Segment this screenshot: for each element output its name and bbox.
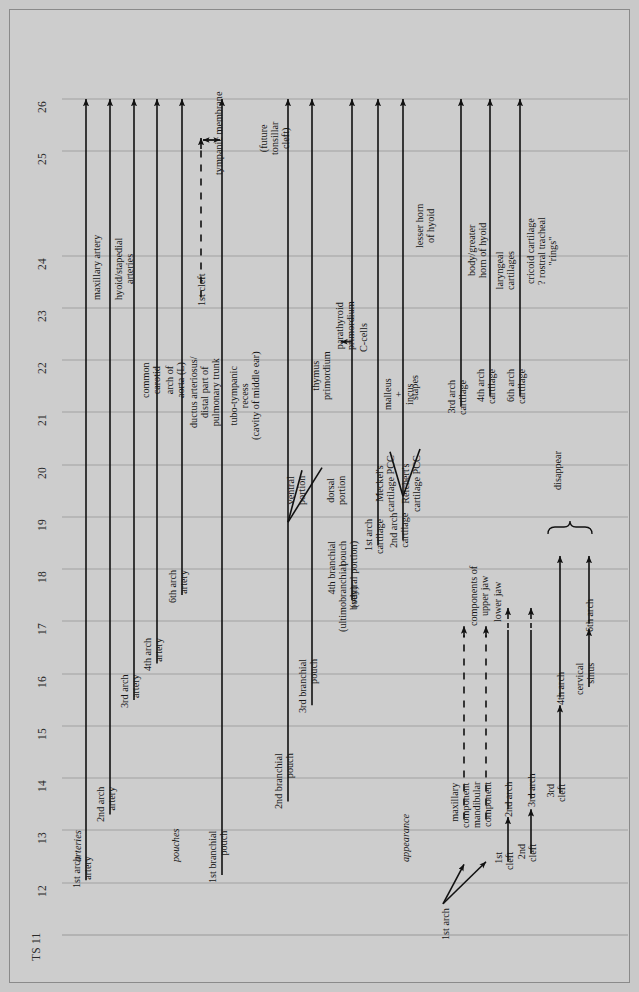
annotation-lesser-horn-of-hyoid: lesser horn of hyoid <box>414 204 436 248</box>
annotation-arch-of-aorta: arch of aorta (L) <box>164 362 186 398</box>
annotation-meckels-cartilage: Meckel's cartilage PCC <box>374 455 396 512</box>
section-heading-arteries: arteries <box>72 830 83 862</box>
track-label-3rd-cleft-appearance: 3rd cleft <box>545 783 567 801</box>
annotation-thymus-primordium: thymus primordium <box>310 351 332 400</box>
track-label-1st-arch-cartilage: 1st arch cartilage <box>363 519 385 554</box>
track-label-6th-arch-artery: 6th arch artery <box>167 570 189 603</box>
annotation-reicherts-cartilage: Reichert's cartilage PCC <box>400 455 422 512</box>
annotation-ultimobranchial-body: (ultimobranchial body) <box>337 564 359 632</box>
annotation-tympanic-membrane: tympanic membrane <box>213 92 224 175</box>
annotation-parathyroid-primordium: parathyroid primordium <box>334 301 356 350</box>
axis-tick-18: 18 <box>36 571 48 583</box>
axis-tick-20: 20 <box>36 467 48 479</box>
annotation-body-greater-horn: body/greater horn of hyoid <box>466 223 488 278</box>
track-line <box>443 864 464 903</box>
track-label-maxillary-component: maxillary component <box>449 782 471 827</box>
track-label-3rd-arch-cartilage: 3rd arch cartilage <box>446 380 468 415</box>
annotation-tubo-tympanic-recess: tubo-tympanic recess (cavity of middle e… <box>228 351 261 440</box>
axis-tick-21: 21 <box>36 414 48 426</box>
track-label-6th-arch: 6th arch <box>584 599 595 632</box>
annotation-components-of-upper-jaw: components of upper jaw <box>468 566 490 626</box>
axis-tick-24: 24 <box>36 258 48 270</box>
track-label-2nd-arch: 2nd arch <box>503 782 514 817</box>
track-label-cervical-sinus: cervical sinus <box>574 663 596 695</box>
track-label-6th-arch-cartilage: 6th arch cartilage <box>505 369 527 404</box>
track-label-3rd-branchial-pouch: 3rd branchial pouch <box>297 659 319 713</box>
annotation-dorsal-portion: dorsal portion <box>325 476 347 505</box>
axis-tick-23: 23 <box>36 310 48 322</box>
disappear-bracket <box>548 521 592 534</box>
track-label-mandibular-component: mandibular component <box>471 781 493 827</box>
annotation-ductus-arteriosus: ductus arteriosus/ distal part of pulmon… <box>188 356 221 428</box>
track-label-4th-arch-artery: 4th arch artery <box>142 638 164 671</box>
annotation-ventral-portion: ventral portion <box>285 476 307 505</box>
annotation-common-carotid: common carotid <box>140 362 162 398</box>
track-label-1st-cleft: 1st cleft <box>196 273 207 306</box>
track-label-1st-branchial-pouch: 1st branchial pouch <box>207 831 229 883</box>
axis-tick-15: 15 <box>36 728 48 740</box>
figure-page: TS 111213141516171819202122232425261st a… <box>0 0 639 992</box>
annotation-maxillary-artery: maxillary artery <box>91 235 102 300</box>
timeline-plot <box>0 0 639 992</box>
axis-tick-26: 26 <box>36 101 48 113</box>
annotation-lower-jaw: lower jaw <box>492 582 503 622</box>
annotation-stapes: stapes <box>409 375 420 400</box>
section-heading-appearance: appearance <box>400 814 411 862</box>
section-heading-pouches: pouches <box>170 829 181 862</box>
track-label-3rd-arch-artery: 3rd arch artery <box>119 674 141 708</box>
track-label-2nd-cleft-appearance: 2nd cleft <box>516 844 538 862</box>
annotation-cricoid-cartilage: cricoid cartilage ? rostral tracheal "ri… <box>525 217 558 285</box>
annotation-c-cells: C-cells <box>358 323 369 352</box>
axis-tick-17: 17 <box>36 623 48 635</box>
axis-tick-19: 19 <box>36 519 48 531</box>
track-label-2nd-arch-cartilage: 2nd arch cartilage <box>388 513 410 548</box>
annotation-hyoid-stapedial: hyoid/stapedial arteries <box>113 238 135 300</box>
axis-tick-22: 22 <box>36 362 48 374</box>
annotation-future-tonsillar-cleft: (future tonsillar cleft) <box>258 122 291 155</box>
annotation-first-arch-origin: 1st arch <box>440 908 451 940</box>
annotation-disappear: disappear <box>552 451 563 490</box>
axis-tick-11: TS 11 <box>30 933 42 961</box>
axis-tick-25: 25 <box>36 153 48 165</box>
track-label-4th-arch-cartilage: 4th arch cartilage <box>475 369 497 404</box>
axis-tick-16: 16 <box>36 676 48 688</box>
track-label-4th-arch: 4th arch <box>555 672 566 705</box>
track-label-2nd-branchial-pouch: 2nd branchial pouch <box>273 754 295 810</box>
track-label-3rd-arch: 3rd arch <box>526 773 537 807</box>
track-label-2nd-arch-artery: 2nd arch artery <box>95 787 117 822</box>
annotation-laryngeal-cartilages: laryngeal cartilages <box>494 251 516 290</box>
axis-tick-13: 13 <box>36 832 48 844</box>
track-label-1st-cleft-appearance: 1st cleft <box>493 852 515 870</box>
axis-tick-14: 14 <box>36 780 48 792</box>
axis-tick-12: 12 <box>36 885 48 897</box>
